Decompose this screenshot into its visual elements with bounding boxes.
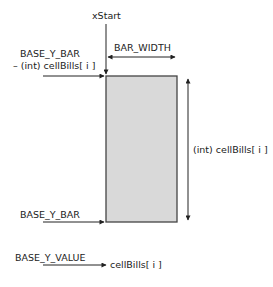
top-label-line2: – (int) cellBills[ i ] <box>13 60 95 71</box>
bar-height-label: (int) cellBills[ i ] <box>193 144 268 155</box>
bar-width-label: BAR_WIDTH <box>114 42 171 53</box>
bar-rectangle <box>106 76 177 222</box>
top-label-line1: BASE_Y_BAR <box>20 48 80 59</box>
xstart-label: xStart <box>92 10 121 21</box>
base-y-bar-label: BASE_Y_BAR <box>20 209 80 220</box>
base-y-value-label: BASE_Y_VALUE <box>15 252 86 263</box>
value-label: cellBills[ i ] <box>110 259 162 270</box>
